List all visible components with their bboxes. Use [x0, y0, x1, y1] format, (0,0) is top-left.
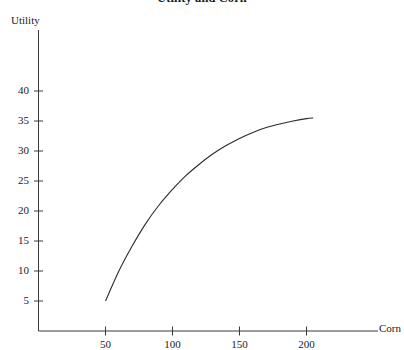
y-tick-label: 20	[3, 205, 29, 216]
chart-page: Utility and Corn Utility Corn 5101520253…	[0, 0, 404, 350]
x-tick-label: 100	[153, 339, 193, 350]
y-tick-label: 5	[3, 295, 29, 306]
y-tick-label: 35	[3, 115, 29, 126]
y-tick-label: 25	[3, 175, 29, 186]
y-tick-label: 10	[3, 265, 29, 276]
y-tick-label: 15	[3, 235, 29, 246]
x-tick-label: 150	[220, 339, 260, 350]
utility-curve	[106, 118, 314, 301]
y-tick-label: 40	[3, 85, 29, 96]
plot-area	[0, 0, 404, 350]
y-tick-label: 30	[3, 145, 29, 156]
x-tick-label: 50	[86, 339, 126, 350]
x-tick-label: 200	[287, 339, 327, 350]
